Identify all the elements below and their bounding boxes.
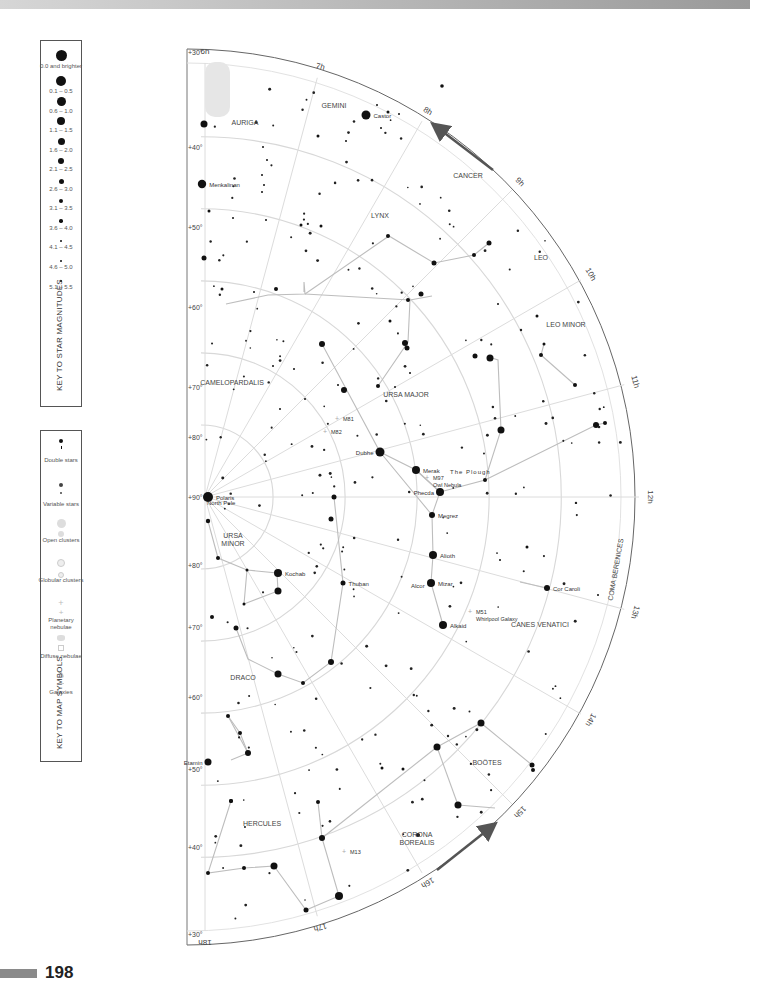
faint-star: [475, 728, 478, 731]
faint-star: [271, 427, 273, 429]
faint-star: [361, 738, 363, 740]
faint-star: [398, 612, 400, 614]
faint-star: [407, 187, 409, 189]
faint-star: [248, 695, 250, 697]
ra-label: 13h: [629, 605, 641, 620]
faint-star: [523, 570, 525, 572]
star: [201, 121, 208, 128]
faint-star: [552, 688, 554, 690]
ra-line: [205, 497, 581, 714]
faint-star: [411, 801, 414, 804]
deep-sky-icon: +: [342, 848, 346, 855]
faint-star: [290, 731, 292, 733]
faint-star: [267, 381, 269, 383]
ra-label: 14h: [584, 712, 598, 728]
star: [386, 234, 390, 238]
faint-star: [243, 376, 245, 378]
star-chart: 6h7h8h9h10h11h12h13h14h15h16h17h18h+30°+…: [0, 0, 770, 984]
faint-star: [238, 736, 240, 738]
faint-star: [371, 179, 374, 182]
faint-star: [311, 445, 314, 448]
faint-star: [465, 339, 467, 341]
constellation-label: CANES VENATICI: [511, 621, 569, 628]
faint-star: [303, 213, 305, 215]
faint-star: [353, 596, 355, 598]
faint-star: [334, 182, 337, 185]
faint-star: [460, 581, 463, 584]
faint-star: [377, 377, 379, 379]
constellation-line: [318, 802, 322, 838]
star: [376, 384, 380, 388]
constellation-line: [431, 515, 443, 625]
faint-star: [375, 433, 378, 436]
faint-star: [341, 550, 343, 552]
faint-star: [555, 685, 557, 687]
star-name-label: Menkalinan: [209, 182, 240, 188]
faint-star: [306, 99, 308, 101]
faint-star: [353, 120, 356, 123]
faint-star: [574, 620, 577, 623]
star: [341, 387, 347, 393]
faint-star: [268, 872, 270, 874]
deep-sky-name: Owl Nebula: [433, 482, 462, 488]
faint-star: [250, 347, 252, 349]
star: [275, 588, 282, 595]
faint-star: [315, 565, 318, 568]
faint-star: [571, 442, 573, 444]
constellation-line: [226, 282, 305, 304]
faint-star: [307, 223, 309, 225]
faint-star: [265, 460, 267, 462]
star: [483, 478, 487, 482]
ra-label: 8h: [422, 105, 434, 117]
faint-star: [357, 179, 360, 182]
deep-sky-name: Whirlpool Galaxy: [476, 616, 518, 622]
faint-star: [233, 388, 235, 390]
faint-star: [220, 436, 222, 438]
star: [409, 372, 411, 374]
ra-label: 9h: [514, 176, 527, 189]
faint-star: [544, 240, 546, 242]
star: [293, 368, 295, 370]
faint-star: [483, 452, 485, 454]
faint-star: [545, 733, 547, 735]
faint-star: [279, 355, 281, 357]
star: [304, 398, 306, 400]
faint-star: [395, 305, 397, 307]
deep-sky-label: M51: [476, 609, 487, 615]
star: [341, 581, 346, 586]
ra-label: 11h: [629, 374, 641, 389]
declination-label: +30°: [188, 49, 203, 56]
faint-star: [374, 734, 376, 736]
faint-star: [410, 667, 413, 670]
faint-star: [517, 229, 519, 231]
rotation-arrow-bottom: [437, 828, 490, 870]
faint-star: [401, 292, 403, 294]
star: [205, 759, 212, 766]
constellation-line: [520, 582, 547, 588]
faint-star: [245, 340, 247, 342]
faint-star: [311, 635, 314, 638]
star: [419, 292, 424, 297]
star: [439, 621, 447, 629]
star: [389, 320, 392, 323]
star: [216, 556, 220, 560]
faint-star: [357, 322, 360, 325]
faint-star: [323, 405, 325, 407]
faint-star: [262, 591, 264, 593]
ra-line: [205, 497, 422, 873]
star: [412, 466, 420, 474]
star: [544, 585, 550, 591]
faint-star: [520, 329, 522, 331]
ra-line: [205, 121, 422, 497]
star: [253, 291, 255, 293]
faint-star: [290, 236, 292, 238]
star: [543, 343, 546, 346]
star: [539, 353, 543, 357]
faint-star: [514, 415, 516, 417]
constellation-label: CORONABOREALIS: [399, 831, 434, 846]
declination-label: +60°: [188, 304, 203, 311]
faint-star: [342, 546, 344, 548]
faint-star: [401, 576, 403, 578]
faint-star: [424, 779, 426, 781]
faint-star: [322, 547, 324, 549]
